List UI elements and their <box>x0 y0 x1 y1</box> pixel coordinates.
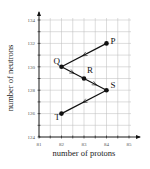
x-tick-label: 82 <box>59 142 65 147</box>
x-tick-label: 83 <box>82 142 88 147</box>
x-tick-label: 85 <box>127 142 133 147</box>
y-tick-label: 124 <box>28 135 36 140</box>
point-label-t: T <box>55 112 61 122</box>
y-tick-label: 134 <box>28 18 36 23</box>
point-label-r: R <box>87 65 93 75</box>
point-label-q: Q <box>54 56 61 66</box>
y-tick-label: 132 <box>28 41 36 46</box>
data-point <box>104 88 109 93</box>
point-label-s: S <box>111 80 116 90</box>
y-tick-label: 130 <box>28 65 36 70</box>
data-point <box>82 76 87 81</box>
y-tick-label: 128 <box>28 88 36 93</box>
x-tick-label: 84 <box>104 142 110 147</box>
data-point <box>104 41 109 46</box>
x-axis-label: number of protons <box>53 148 116 158</box>
x-tick-label: 81 <box>37 142 43 147</box>
y-tick-label: 126 <box>28 111 36 116</box>
axes <box>37 11 141 139</box>
y-axis-label: number of neutrons <box>5 45 15 112</box>
tick-labels: 8182838485124126128130132134 <box>28 18 133 147</box>
decay-chain-chart: 8182838485124126128130132134 PQRST numbe… <box>0 0 150 169</box>
point-label-p: P <box>111 36 116 46</box>
